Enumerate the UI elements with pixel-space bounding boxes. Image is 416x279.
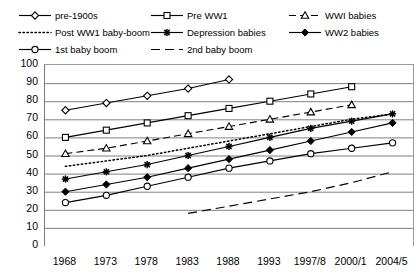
x-axis-tick-1968: 1968 bbox=[53, 255, 76, 267]
y-axis-tick-90: 90 bbox=[0, 76, 38, 86]
data-point-marker bbox=[266, 146, 273, 153]
data-point-marker bbox=[389, 119, 396, 126]
data-point-marker bbox=[348, 118, 355, 125]
data-point-marker bbox=[144, 137, 151, 144]
legend-item-pre-ww1[interactable]: Pre WW1 bbox=[150, 10, 228, 21]
data-point-marker bbox=[308, 151, 314, 157]
data-point-marker bbox=[103, 99, 110, 106]
data-point-marker bbox=[267, 98, 273, 104]
data-point-marker bbox=[103, 168, 110, 175]
series-pre-1900s bbox=[62, 76, 233, 114]
x-axis-tick-labels: 1968197319781983198819931997/82000/12004… bbox=[44, 255, 412, 273]
y-axis-tick-50: 50 bbox=[0, 149, 38, 159]
y-axis-tick-20: 20 bbox=[0, 203, 38, 213]
legend-swatch bbox=[150, 44, 184, 55]
legend-swatch bbox=[150, 27, 184, 38]
data-point-marker bbox=[226, 105, 232, 111]
data-point-marker bbox=[62, 175, 69, 182]
legend-label: Depression babies bbox=[187, 28, 266, 38]
legend-item-pre-1900s[interactable]: pre-1900s bbox=[18, 10, 98, 21]
data-point-marker bbox=[62, 199, 68, 205]
data-point-marker bbox=[62, 134, 68, 140]
legend-marker-icon bbox=[32, 46, 38, 52]
data-point-marker bbox=[185, 152, 192, 159]
legend-marker-icon bbox=[301, 29, 308, 36]
x-axis-tick-2000-1: 2000/1 bbox=[335, 255, 367, 267]
data-point-marker bbox=[308, 91, 314, 97]
legend-swatch bbox=[288, 27, 322, 38]
data-point-marker bbox=[144, 161, 151, 168]
chart-legend: pre-1900sPre WW1WWI babiesPost WW1 baby-… bbox=[0, 10, 416, 62]
y-axis-tick-40: 40 bbox=[0, 167, 38, 177]
legend-item-post-ww1-baby-boom[interactable]: Post WW1 baby-boom bbox=[18, 27, 150, 38]
legend-marker-icon bbox=[31, 12, 38, 19]
x-axis-tick-2004-5: 2004/5 bbox=[375, 255, 407, 267]
y-axis-tick-30: 30 bbox=[0, 185, 38, 195]
data-point-marker bbox=[389, 110, 396, 117]
x-axis-tick-1983: 1983 bbox=[175, 255, 198, 267]
x-axis-tick-1997-8: 1997/8 bbox=[294, 255, 326, 267]
x-axis-tick-1978: 1978 bbox=[135, 255, 158, 267]
data-point-marker bbox=[62, 107, 69, 114]
data-point-marker bbox=[349, 145, 355, 151]
data-point-marker bbox=[267, 158, 273, 164]
data-point-marker bbox=[103, 192, 109, 198]
data-point-marker bbox=[103, 145, 110, 152]
data-point-marker bbox=[307, 108, 314, 115]
data-point-marker bbox=[225, 76, 232, 83]
x-axis-tick-1973: 1973 bbox=[94, 255, 117, 267]
legend-label: 1st baby boom bbox=[55, 45, 117, 55]
legend-swatch bbox=[18, 10, 52, 21]
legend-swatch bbox=[150, 10, 184, 21]
legend-item-ww2-babies[interactable]: WW2 babies bbox=[288, 27, 379, 38]
legend-label: 2nd baby boom bbox=[187, 45, 253, 55]
data-point-marker bbox=[266, 134, 273, 141]
y-axis-tick-70: 70 bbox=[0, 112, 38, 122]
data-point-marker bbox=[62, 188, 69, 195]
x-axis-tick-1993: 1993 bbox=[257, 255, 280, 267]
data-point-marker bbox=[185, 174, 191, 180]
data-point-marker bbox=[225, 143, 232, 150]
data-point-marker bbox=[225, 156, 232, 163]
legend-item-depression-babies[interactable]: Depression babies bbox=[150, 27, 266, 38]
legend-item-2nd-baby-boom[interactable]: 2nd baby boom bbox=[150, 44, 253, 55]
data-point-marker bbox=[185, 165, 192, 172]
data-point-marker bbox=[144, 120, 150, 126]
legend-label: WWI babies bbox=[325, 11, 376, 21]
y-axis-tick-60: 60 bbox=[0, 130, 38, 140]
data-point-marker bbox=[389, 140, 395, 146]
data-point-marker bbox=[307, 125, 314, 132]
series-2nd-baby-boom bbox=[188, 172, 392, 214]
data-point-marker bbox=[185, 113, 191, 119]
legend-swatch bbox=[18, 44, 52, 55]
series-line bbox=[65, 143, 392, 203]
series-line bbox=[188, 172, 392, 214]
legend-marker-icon bbox=[164, 13, 170, 19]
data-point-marker bbox=[348, 101, 355, 108]
legend-marker-icon bbox=[163, 29, 170, 36]
legend-item-1st-baby-boom[interactable]: 1st baby boom bbox=[18, 44, 117, 55]
data-point-marker bbox=[103, 127, 109, 133]
legend-label: Post WW1 baby-boom bbox=[55, 28, 150, 38]
y-axis-tick-labels: 1009080706050403020100 bbox=[0, 64, 40, 245]
chart-container: pre-1900sPre WW1WWI babiesPost WW1 baby-… bbox=[0, 0, 416, 279]
data-point-marker bbox=[349, 84, 355, 90]
legend-label: Pre WW1 bbox=[187, 11, 228, 21]
data-point-marker bbox=[348, 128, 355, 135]
legend-label: WW2 babies bbox=[325, 28, 379, 38]
y-axis-tick-10: 10 bbox=[0, 221, 38, 231]
data-point-marker bbox=[307, 137, 314, 144]
data-point-marker bbox=[226, 165, 232, 171]
legend-label: pre-1900s bbox=[55, 11, 98, 21]
data-point-marker bbox=[144, 92, 151, 99]
y-axis-tick-100: 100 bbox=[0, 58, 38, 68]
x-axis-tick-1988: 1988 bbox=[216, 255, 239, 267]
legend-swatch bbox=[18, 27, 52, 38]
legend-item-wwi-babies[interactable]: WWI babies bbox=[288, 10, 376, 21]
data-point-marker bbox=[185, 85, 192, 92]
y-axis-tick-80: 80 bbox=[0, 94, 38, 104]
data-series-layer bbox=[45, 65, 413, 246]
y-axis-tick-0: 0 bbox=[0, 239, 38, 249]
data-point-marker bbox=[144, 183, 150, 189]
data-point-marker bbox=[103, 181, 110, 188]
